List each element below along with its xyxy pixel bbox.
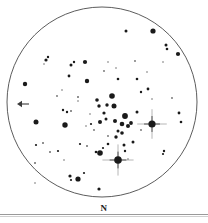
star-marker [23, 82, 27, 86]
star-marker [127, 158, 129, 160]
star-marker [107, 143, 110, 146]
star-marker [150, 28, 155, 33]
star-marker [95, 98, 99, 102]
star-marker [90, 123, 92, 125]
star-marker [151, 98, 153, 100]
star-marker [56, 95, 58, 97]
star-marker [61, 89, 63, 91]
footer-divider-rule [0, 214, 208, 215]
footer-divider-rule-secondary [0, 216, 208, 217]
star-marker [114, 156, 122, 164]
star-marker [57, 150, 59, 152]
star-marker [171, 97, 173, 99]
star-marker [117, 130, 120, 133]
star-marker [117, 78, 120, 81]
star-marker [163, 150, 165, 152]
star-marker [34, 162, 36, 164]
star-marker [147, 88, 150, 91]
star-marker [43, 63, 45, 65]
north-direction-label: N [0, 203, 208, 213]
star-marker [68, 174, 71, 177]
star-marker [98, 120, 102, 124]
star-marker [109, 93, 115, 99]
star-marker [95, 151, 98, 154]
star-marker [62, 109, 64, 111]
star-marker [70, 179, 72, 181]
star-marker [34, 182, 36, 184]
star-marker [162, 153, 164, 155]
star-marker [105, 103, 108, 106]
star-marker [93, 129, 95, 131]
field-of-view-canvas [0, 0, 208, 223]
star-marker [132, 141, 135, 144]
field-of-view-circle [7, 7, 197, 197]
star-marker [89, 113, 91, 115]
star-marker [112, 104, 117, 109]
star-marker [136, 111, 139, 114]
star-marker [123, 144, 126, 147]
star-marker [176, 52, 180, 56]
star-marker [120, 122, 125, 127]
star-marker [165, 44, 168, 47]
star-marker [120, 131, 124, 135]
star-marker [97, 150, 103, 156]
star-marker [125, 30, 128, 33]
star-marker [66, 111, 68, 113]
star-marker [166, 48, 169, 51]
star-marker [102, 147, 104, 149]
star-marker [86, 145, 88, 147]
star-marker [70, 110, 72, 112]
star-marker [49, 151, 51, 153]
star-marker [47, 56, 49, 58]
star-marker [107, 135, 109, 137]
star-marker [77, 100, 79, 102]
star-marker [129, 121, 133, 125]
star-marker [178, 112, 181, 115]
star-marker [77, 96, 79, 98]
star-marker [140, 129, 142, 131]
star-marker [97, 187, 100, 190]
star-marker [122, 113, 128, 119]
star-marker [73, 61, 75, 63]
star-marker [85, 79, 89, 83]
star-marker [103, 70, 105, 72]
star-marker [113, 119, 117, 123]
star-marker [180, 121, 183, 124]
star-marker [146, 71, 148, 73]
star-marker [68, 75, 71, 78]
star-marker [126, 124, 130, 128]
star-marker [136, 78, 139, 81]
star-marker [62, 122, 67, 127]
star-marker [79, 143, 81, 145]
star-marker [35, 144, 37, 146]
star-marker [70, 64, 73, 67]
star-marker [124, 150, 126, 152]
star-marker [114, 135, 117, 138]
eyepiece-sketch-figure: N [0, 0, 208, 223]
star-marker [107, 61, 109, 63]
star-marker [83, 60, 87, 64]
star-marker [63, 159, 65, 161]
star-marker [75, 176, 80, 181]
star-marker [102, 111, 105, 114]
star-marker [148, 120, 155, 127]
star-marker [85, 125, 87, 127]
star-marker [105, 118, 108, 121]
star-marker [140, 91, 142, 93]
star-marker [34, 120, 39, 125]
star-marker [115, 67, 117, 69]
star-marker [134, 60, 136, 62]
star-marker [83, 172, 85, 174]
star-marker [44, 58, 47, 61]
star-marker [97, 104, 100, 107]
star-marker [162, 61, 164, 63]
star-marker [42, 142, 44, 144]
